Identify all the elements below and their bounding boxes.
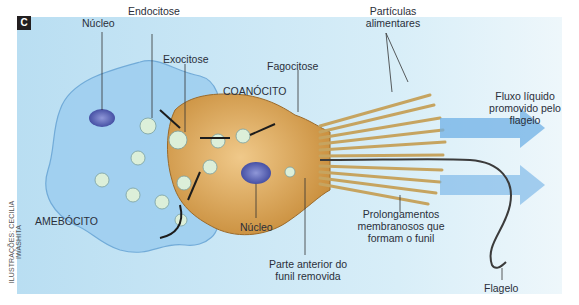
illustration-credit: ILUSTRAÇÕES: CECILIA IWASHITA [8, 187, 22, 297]
label-coanocito: COANÓCITO [223, 85, 286, 97]
label-amebocito: AMEBÓCITO [35, 215, 98, 227]
amebocyte-nucleus [89, 109, 115, 127]
sponge-cells-diagram: C ILUSTRAÇÕES: CECILIA IWASHITA Núcleo E… [0, 0, 579, 305]
label-nucleo-coanocito: Núcleo [240, 221, 273, 233]
label-endocitose: Endocitose [128, 5, 180, 17]
label-fagocitose: Fagocitose [267, 60, 318, 72]
label-particulas: Partículas alimentares [358, 5, 428, 29]
label-prolongamentos: Prolongamentos membranosos que formam o … [346, 208, 456, 244]
choanocyte-nucleus [241, 162, 271, 184]
label-nucleo-amebocito: Núcleo [82, 17, 115, 29]
label-fluxo: Fluxo líquido promovido pelo flagelo [480, 90, 570, 126]
label-exocitose: Exocitose [163, 53, 209, 65]
label-flagelo: Flagelo [484, 282, 518, 294]
label-parte-anterior: Parte anterior do funil removida [258, 258, 358, 282]
panel-letter-badge: C [17, 16, 31, 30]
